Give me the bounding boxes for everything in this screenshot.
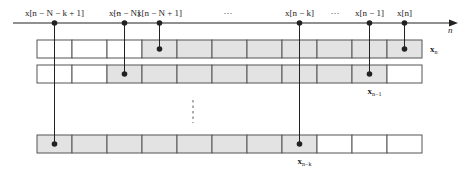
axis-sample-label: x[n − N − k + 1] xyxy=(25,8,84,18)
axis-sample-dot xyxy=(157,20,163,26)
cell xyxy=(352,135,387,153)
vector-label-x_n-1: xn−1 xyxy=(368,86,382,97)
cell xyxy=(317,40,352,58)
axis-sample-label: x[n − k] xyxy=(285,8,314,18)
axis-sample-dot xyxy=(402,20,408,26)
axis-label: n xyxy=(448,25,453,35)
cell xyxy=(212,40,247,58)
sample-dot xyxy=(157,46,163,52)
sample-dot xyxy=(367,71,373,77)
axis-sample-dot xyxy=(52,20,58,26)
vector-label-x_n: xn xyxy=(430,44,438,55)
cell xyxy=(177,135,212,153)
cell xyxy=(177,65,212,83)
sample-dot xyxy=(122,71,128,77)
ellipsis: ··· xyxy=(224,8,233,18)
ellipsis: ··· xyxy=(331,8,340,18)
cell xyxy=(247,65,282,83)
cell xyxy=(247,135,282,153)
cell xyxy=(212,65,247,83)
cell xyxy=(72,40,107,58)
cell xyxy=(212,135,247,153)
vector-label-x_n-k: xn−k xyxy=(298,156,312,167)
axis-sample-dot xyxy=(122,20,128,26)
cell xyxy=(317,135,352,153)
cell xyxy=(317,65,352,83)
cell xyxy=(142,65,177,83)
window-diagram: nx[n − N − k + 1]x[n − N]x[n − N + 1]x[n… xyxy=(0,0,466,171)
ellipsis: ··· xyxy=(113,8,122,18)
axis-sample-dot xyxy=(297,20,303,26)
cell xyxy=(107,135,142,153)
cell xyxy=(387,135,422,153)
cell xyxy=(142,135,177,153)
cell xyxy=(72,65,107,83)
cell xyxy=(247,40,282,58)
axis-sample-label: x[n − N + 1] xyxy=(137,8,182,18)
sample-dot xyxy=(52,141,58,147)
axis-sample-dot xyxy=(367,20,373,26)
cell xyxy=(387,65,422,83)
axis-sample-label: x[n − 1] xyxy=(355,8,384,18)
cell xyxy=(72,135,107,153)
axis-sample-label: x[n] xyxy=(397,8,412,18)
sample-dot xyxy=(402,46,408,52)
cell xyxy=(177,40,212,58)
sample-dot xyxy=(297,141,303,147)
